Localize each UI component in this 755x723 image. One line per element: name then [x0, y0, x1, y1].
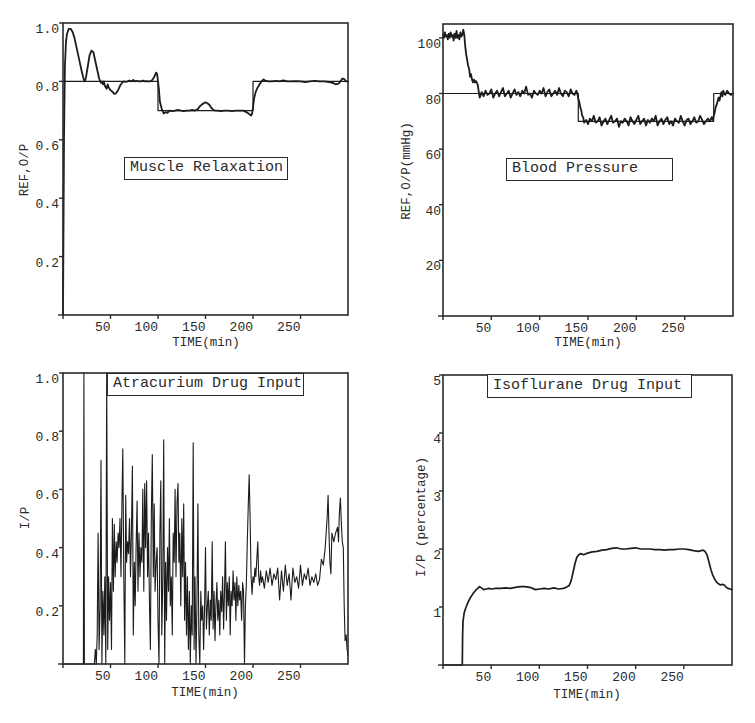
plot-area: 0.20.40.60.81.050100150200250: [63, 373, 348, 664]
plot-area: 1234550100150200250: [443, 375, 732, 665]
x-tick-label: 150: [166, 670, 206, 683]
x-tick-label: 250: [645, 322, 685, 335]
x-axis-label: TIME(min): [488, 336, 688, 350]
plot-canvas: [63, 373, 348, 664]
x-tick-label: 200: [213, 321, 253, 334]
series-drug-input-line: [443, 548, 732, 665]
y-axis-label: I/P: [19, 408, 33, 628]
x-tick-label: 150: [166, 321, 206, 334]
x-axis-label: TIME(min): [106, 336, 306, 350]
x-tick-label: 50: [71, 670, 111, 683]
x-tick-label: 150: [548, 322, 588, 335]
chart-title: Isoflurane Drug Input: [487, 374, 692, 398]
x-tick-label: 100: [499, 671, 539, 684]
chart-title: Atracurium Drug Input: [107, 373, 304, 396]
y-axis-label: REF,O/P: [18, 60, 32, 280]
x-axis-label: TIME(min): [105, 686, 305, 700]
y-tick-label: 100: [401, 38, 441, 51]
x-tick-label: 200: [596, 322, 636, 335]
x-tick-label: 100: [118, 321, 158, 334]
x-tick-label: 100: [500, 322, 540, 335]
x-tick-label: 50: [451, 671, 491, 684]
y-tick-label: 5: [401, 375, 441, 388]
x-tick-label: 200: [213, 670, 253, 683]
x-tick-label: 200: [596, 671, 636, 684]
series-output-line: [443, 30, 733, 127]
x-tick-label: 50: [451, 322, 491, 335]
y-axis-label: REF,O/P(mmHg): [400, 61, 414, 281]
x-axis-label: TIME(min): [487, 688, 687, 702]
chart-title: Blood Pressure: [506, 158, 673, 181]
plot-canvas: [443, 375, 732, 665]
y-tick-label: 1.0: [19, 23, 59, 36]
series-reference-line: [443, 94, 733, 122]
y-axis-label: I/P (percentage): [415, 407, 429, 627]
x-tick-label: 250: [644, 671, 684, 684]
x-tick-label: 50: [71, 321, 111, 334]
x-tick-label: 100: [118, 670, 158, 683]
y-tick-label: 1.0: [19, 373, 59, 386]
series-drug-input-line: [63, 373, 348, 664]
chart-title: Muscle Relaxation: [124, 157, 288, 180]
plot-frame: [443, 375, 732, 665]
x-tick-label: 250: [261, 321, 301, 334]
x-tick-label: 150: [548, 671, 588, 684]
x-tick-label: 250: [261, 670, 301, 683]
